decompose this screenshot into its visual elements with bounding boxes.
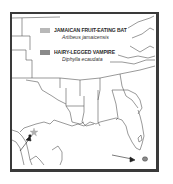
florida-range-patch — [142, 157, 147, 161]
keys-arrow-icon — [130, 157, 135, 162]
legend-scientific-name: Artibeus jamaicensis — [62, 34, 109, 40]
map-legend: JAMAICAN FRUIT-EATING BAT Artibeus jamai… — [40, 26, 150, 70]
star-marker-icon — [30, 128, 38, 136]
legend-item-jamaican-fruit-eating-bat: JAMAICAN FRUIT-EATING BAT Artibeus jamai… — [40, 26, 150, 48]
legend-swatch — [40, 50, 50, 55]
legend-scientific-name: Diphylla ecaudata — [62, 56, 103, 62]
legend-swatch — [40, 28, 50, 33]
legend-item-hairy-legged-vampire: HAIRY-LEGGED VAMPIRE Diphylla ecaudata — [40, 48, 150, 70]
legend-common-name: HAIRY-LEGGED VAMPIRE — [54, 48, 115, 55]
legend-common-name: JAMAICAN FRUIT-EATING BAT — [54, 26, 127, 33]
